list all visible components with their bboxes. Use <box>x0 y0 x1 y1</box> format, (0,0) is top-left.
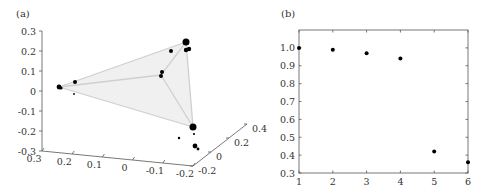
y-tick-label: 1.0 <box>280 42 295 53</box>
panel-b-axes: 0.30.40.50.60.70.80.91.0123456 <box>280 30 471 187</box>
data-point <box>190 124 197 131</box>
x-tick-label: 4 <box>397 176 403 187</box>
data-point <box>183 39 190 46</box>
y-tick-label: 0.5 <box>280 132 295 143</box>
y-tick-label: -0.2 <box>198 165 216 176</box>
panel-label-a: (a) <box>16 8 30 19</box>
x-tick-label: -0.1 <box>146 165 164 176</box>
z-tick-label: -0.1 <box>18 106 36 117</box>
x-tick-label: 5 <box>431 176 437 187</box>
y-tick-label: 0.7 <box>280 96 295 107</box>
data-point <box>197 148 200 151</box>
x-tick-label: 0 <box>122 162 128 173</box>
x-tick <box>72 151 74 154</box>
panel-b-scatter: 0.30.40.50.60.70.80.91.0123456 <box>280 30 471 187</box>
x-tick-label: 0.3 <box>26 153 41 164</box>
x-tick-label: 2 <box>330 176 336 187</box>
data-point <box>193 144 198 149</box>
y-tick-label: 0.3 <box>280 168 295 179</box>
z-tick-label: 0.3 <box>21 26 36 37</box>
panel-b-points <box>297 46 470 164</box>
z-tick-label: 0.1 <box>21 66 36 77</box>
data-point <box>178 137 180 139</box>
y-tick-label: 0.4 <box>280 150 295 161</box>
y-tick-label: 0.8 <box>280 78 295 89</box>
y-tick-label: 0.2 <box>234 137 249 148</box>
y-tick-label: 0.6 <box>280 114 295 125</box>
y-tick-label: 0 <box>216 151 222 162</box>
data-point <box>398 57 402 61</box>
data-point <box>466 160 470 164</box>
data-point <box>73 93 75 95</box>
x-tick-label: -0.2 <box>176 168 194 179</box>
y-tick-label: 0.4 <box>252 123 267 134</box>
figure: (a) (b) 0.30.20.10-0.1-0.2-0.30.30.20.10… <box>0 0 481 192</box>
data-point <box>160 70 164 74</box>
x-tick <box>163 160 165 163</box>
plot-frame <box>299 30 468 173</box>
data-point <box>297 46 301 50</box>
x-tick <box>133 157 135 160</box>
panel-label-b: (b) <box>281 8 295 19</box>
data-point <box>193 133 195 135</box>
tetrahedron-faces <box>59 42 193 127</box>
z-tick-label: 0 <box>30 86 36 97</box>
data-point <box>169 49 173 53</box>
z-tick-label: 0.2 <box>21 46 36 57</box>
data-point <box>432 150 436 154</box>
data-point <box>59 86 62 89</box>
z-tick-label: -0.2 <box>18 126 36 137</box>
x-tick-label: 1 <box>296 176 302 187</box>
x-tick-label: 6 <box>465 176 471 187</box>
data-point <box>159 74 163 78</box>
x-tick-label: 3 <box>364 176 370 187</box>
data-point <box>331 48 335 52</box>
data-point <box>184 48 188 52</box>
y-tick-label: 0.9 <box>280 60 295 71</box>
data-point <box>73 80 77 84</box>
x-tick-label: 0.1 <box>87 159 102 170</box>
x-tick-label: 0.2 <box>57 156 72 167</box>
x-tick <box>102 154 104 157</box>
panel-a-3d-scatter: 0.30.20.10-0.1-0.2-0.30.30.20.10-0.1-0.2… <box>18 26 267 180</box>
data-point <box>365 51 369 55</box>
